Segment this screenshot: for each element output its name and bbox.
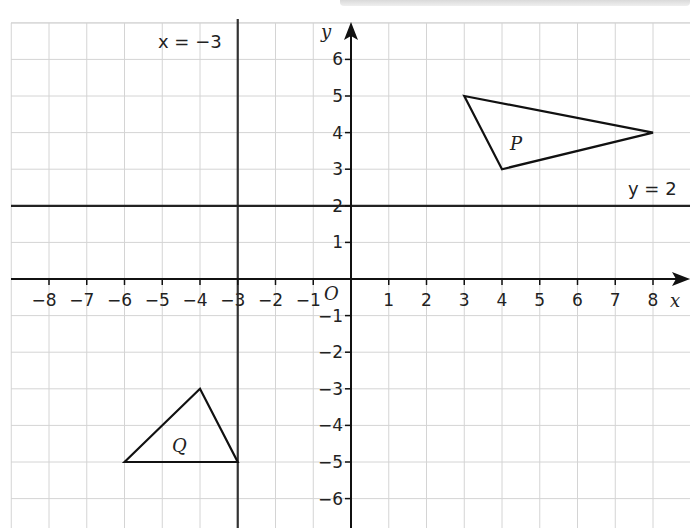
x-tick-label: −2 <box>258 290 283 310</box>
x-tick-label: 7 <box>610 290 621 310</box>
y-tick-label: −2 <box>318 342 343 362</box>
shape-q-label: Q <box>172 435 187 456</box>
origin-label: O <box>324 283 339 304</box>
x-tick-label: 1 <box>383 290 394 310</box>
y-tick-label: −4 <box>318 415 343 435</box>
y-axis-label: y <box>320 21 332 42</box>
y-tick-label: 6 <box>332 49 343 69</box>
x-tick-label: −3 <box>220 290 245 310</box>
x-tick-label: 8 <box>648 290 659 310</box>
annotations: x y O x = −3 y = 2 P Q <box>158 21 680 456</box>
y-tick-label: 2 <box>332 196 343 216</box>
x-tick-label: 2 <box>421 290 432 310</box>
x-tick-label: 3 <box>459 290 470 310</box>
x-tick-label: −6 <box>107 290 132 310</box>
x-tick-label: −8 <box>31 290 56 310</box>
line-y-label: y = 2 <box>628 178 677 199</box>
line-x-label: x = −3 <box>158 31 222 52</box>
y-tick-label: −5 <box>318 452 343 472</box>
y-tick-label: 1 <box>332 232 343 252</box>
shape-p-label: P <box>509 133 523 154</box>
x-tick-label: 4 <box>497 290 508 310</box>
y-tick-label: −1 <box>318 306 343 326</box>
x-tick-label: −5 <box>145 290 170 310</box>
axes <box>11 22 690 528</box>
y-tick-label: 5 <box>332 86 343 106</box>
x-tick-label: 6 <box>572 290 583 310</box>
y-tick-label: 4 <box>332 123 343 143</box>
y-tick-label: −6 <box>318 489 343 509</box>
x-tick-label: −4 <box>182 290 207 310</box>
x-tick-label: 5 <box>534 290 545 310</box>
x-axis-label: x <box>670 290 680 311</box>
y-tick-label: −3 <box>318 379 343 399</box>
x-tick-label: −7 <box>69 290 94 310</box>
coordinate-grid: −8−7−6−5−4−3−2−112345678−6−5−4−3−2−11234… <box>0 0 690 528</box>
y-tick-label: 3 <box>332 159 343 179</box>
